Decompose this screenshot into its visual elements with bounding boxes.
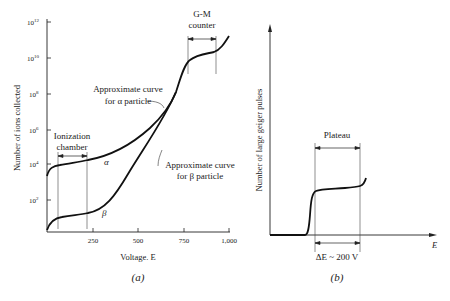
svg-text:1,000: 1,000 — [221, 237, 237, 245]
chart-b-plateau-label: Plateau — [324, 130, 351, 140]
svg-text:1012: 1012 — [27, 18, 40, 27]
figure: 1012 1010 108 106 104 102 250 500 750 1,… — [0, 0, 450, 301]
chart-a-caption: (a) — [132, 271, 145, 284]
chart-b-x-arrow-icon — [429, 233, 437, 237]
chart-a-y-label: Number of ions collected — [12, 84, 22, 171]
chart-a-ionization-label-2: chamber — [57, 142, 88, 152]
svg-text:250: 250 — [88, 237, 99, 245]
chart-a-x-tick-labels: 250 500 750 1,000 — [88, 237, 238, 245]
chart-a-beta-symbol: β — [101, 208, 107, 218]
chart-a-beta-pointer — [158, 150, 162, 166]
chart-a-x-label: Voltage. E — [120, 252, 155, 262]
chart-b-caption: (b) — [331, 271, 344, 284]
chart-a-gm-label-1: G-M — [193, 9, 211, 19]
svg-text:108: 108 — [29, 90, 39, 99]
chart-a-gm-label-2: counter — [189, 20, 216, 30]
svg-text:104: 104 — [29, 160, 39, 169]
chart-a-alpha-curve-label-2: for α particle — [105, 96, 152, 106]
svg-text:106: 106 — [29, 126, 39, 135]
svg-text:1010: 1010 — [27, 54, 40, 63]
chart-b-x-label: E — [431, 240, 438, 250]
chart-a-alpha-curve — [47, 36, 229, 176]
chart-b-curve — [270, 178, 366, 235]
chart-b-plateau-lines — [315, 143, 360, 252]
chart-a-beta-curve-label-2: for β particle — [177, 171, 224, 181]
chart-a: 1012 1010 108 106 104 102 250 500 750 1,… — [12, 9, 237, 284]
chart-b-delta-e-label: ΔE ~ 200 V — [316, 252, 359, 262]
svg-text:102: 102 — [29, 196, 39, 205]
chart-b-arrows — [315, 147, 360, 245]
chart-a-x-ticks — [93, 228, 229, 232]
chart-b-y-arrow-icon — [268, 24, 272, 32]
chart-a-y-tick-labels: 1012 1010 108 106 104 102 — [27, 18, 40, 205]
chart-a-ionization-label-1: Ionization — [54, 131, 91, 141]
chart-b: E Number of large geiger pulses Plateau … — [254, 24, 438, 284]
chart-a-alpha-curve-label-1: Approximate curve — [93, 84, 163, 94]
chart-b-y-label: Number of large geiger pulses — [254, 89, 264, 192]
chart-a-beta-curve-label-1: Approximate curve — [165, 160, 235, 170]
svg-text:750: 750 — [179, 237, 190, 245]
chart-a-alpha-symbol: α — [104, 157, 109, 167]
svg-text:500: 500 — [133, 237, 144, 245]
chart-a-beta-curve — [47, 92, 176, 230]
